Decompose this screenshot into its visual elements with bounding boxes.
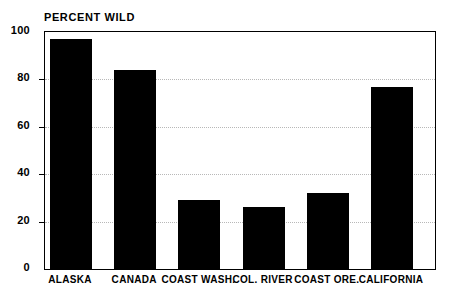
bar: [371, 87, 413, 269]
x-axis-tick-label: COAST ORE.: [294, 274, 359, 286]
bar: [178, 200, 220, 269]
y-axis-tick-labels: 020406080100: [0, 31, 40, 268]
chart-title: PERCENT WILD: [44, 11, 135, 24]
bar: [243, 207, 285, 269]
x-axis-tick-label: CANADA: [112, 274, 157, 286]
x-axis-tick-label: ALASKA: [48, 274, 91, 286]
bar: [114, 70, 156, 269]
y-axis-tick: [39, 127, 45, 128]
y-axis-tick-label: 40: [17, 167, 30, 178]
y-axis-tick-label: 80: [17, 72, 30, 83]
y-axis-tick: [39, 222, 45, 223]
y-axis-tick: [39, 174, 45, 175]
x-axis-tick-labels: ALASKACANADACOAST WASH.COL. RIVERCOAST O…: [0, 274, 450, 290]
y-axis-tick-label: 0: [24, 262, 30, 273]
plot-area: [44, 31, 436, 270]
y-axis-tick-label: 20: [17, 215, 30, 226]
y-axis-tick-label: 60: [17, 120, 30, 131]
x-axis-tick-label: CALIFORNIA: [359, 274, 424, 286]
x-axis-tick-label: COL. RIVER: [232, 274, 292, 286]
gridline: [45, 79, 435, 80]
bar-chart-figure: PERCENT WILD 020406080100 ALASKACANADACO…: [0, 0, 450, 299]
x-axis-tick-label: COAST WASH.: [161, 274, 235, 286]
bar: [50, 39, 92, 269]
y-axis-tick: [39, 79, 45, 80]
bar: [307, 193, 349, 269]
y-axis-tick-label: 100: [11, 25, 30, 36]
